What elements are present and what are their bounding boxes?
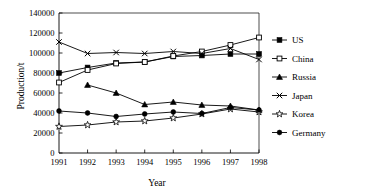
legend-item-germany[interactable]: Germany <box>272 128 326 138</box>
legend-item-japan[interactable]: Japan <box>272 91 313 101</box>
marker-open-star <box>113 118 120 125</box>
marker-filled-circle <box>85 111 90 116</box>
marker-filled-triangle <box>85 82 91 87</box>
marker-filled-square <box>277 38 282 43</box>
x-axis-tick-labels: 19911992199319941995199619971998 <box>51 157 268 167</box>
x-axis-title: Year <box>148 178 166 188</box>
marker-open-star <box>170 114 177 121</box>
x-tick-label: 1992 <box>79 157 96 167</box>
y-tick-label: 60000 <box>33 88 54 98</box>
marker-filled-circle <box>257 108 262 113</box>
legend-label: Germany <box>292 128 326 138</box>
legend-label: China <box>292 54 314 64</box>
y-tick-label: 20000 <box>33 128 54 138</box>
x-tick-label: 1995 <box>165 157 182 167</box>
marker-open-star <box>276 110 283 117</box>
legend-label: Japan <box>292 91 313 101</box>
marker-open-star <box>84 121 91 128</box>
marker-filled-triangle <box>170 99 176 104</box>
marker-filled-square <box>57 71 62 76</box>
y-tick-label: 140000 <box>29 8 55 18</box>
marker-open-square <box>171 54 176 59</box>
marker-open-square <box>114 61 119 66</box>
marker-filled-circle <box>57 109 62 114</box>
legend-item-china[interactable]: China <box>272 54 314 64</box>
chart-canvas: 020000400006000080000100000120000140000 … <box>0 0 372 193</box>
y-tick-label: 80000 <box>33 68 54 78</box>
x-tick-label: 1991 <box>51 157 68 167</box>
legend-label: US <box>292 35 304 45</box>
data-series-layer <box>56 35 263 129</box>
marker-open-square <box>257 35 262 40</box>
x-tick-label: 1993 <box>108 157 125 167</box>
series-germany <box>57 105 262 119</box>
marker-filled-circle <box>199 111 204 116</box>
legend-label: Russia <box>292 72 316 82</box>
y-tick-label: 120000 <box>29 28 55 38</box>
series-china <box>57 35 262 85</box>
marker-filled-circle <box>171 110 176 115</box>
marker-filled-circle <box>228 105 233 110</box>
marker-open-square <box>277 56 282 61</box>
legend-item-russia[interactable]: Russia <box>272 72 316 82</box>
legend-item-korea[interactable]: Korea <box>272 109 314 119</box>
marker-filled-circle <box>114 114 119 119</box>
marker-filled-circle <box>142 112 147 117</box>
line-chart: 020000400006000080000100000120000140000 … <box>0 0 372 193</box>
y-axis-title: Production/t <box>16 62 26 109</box>
x-tick-label: 1994 <box>136 157 154 167</box>
marker-open-star <box>141 117 148 124</box>
x-tick-label: 1997 <box>222 157 239 167</box>
legend-label: Korea <box>292 109 314 119</box>
marker-open-square <box>142 60 147 65</box>
marker-filled-square <box>257 52 262 57</box>
x-tick-label: 1996 <box>193 157 210 167</box>
legend-item-us[interactable]: US <box>272 35 304 45</box>
marker-filled-square <box>228 52 233 57</box>
marker-open-star <box>56 123 63 130</box>
marker-filled-circle <box>277 130 282 135</box>
y-tick-label: 40000 <box>33 108 54 118</box>
y-tick-label: 100000 <box>29 48 55 58</box>
y-axis-tick-labels: 020000400006000080000100000120000140000 <box>29 8 55 158</box>
marker-open-square <box>57 80 62 85</box>
marker-open-square <box>85 68 90 73</box>
x-tick-label: 1998 <box>251 157 268 167</box>
axis-frame <box>59 13 259 153</box>
chart-legend: USChinaRussiaJapanKoreaGermany <box>272 35 326 137</box>
